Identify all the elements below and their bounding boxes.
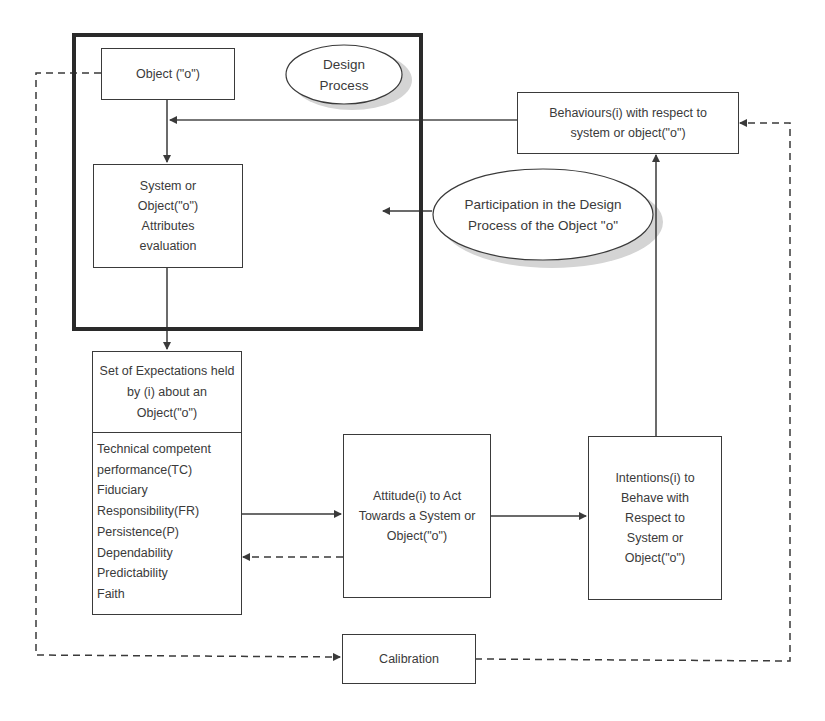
expectation-item: Predictability — [97, 563, 241, 584]
expectation-item: Responsibility(FR) — [97, 501, 241, 522]
expectations-list: Technical competent performance(TC) Fidu… — [92, 432, 242, 615]
calibration-node[interactable]: Calibration — [342, 634, 476, 684]
calibration-label: Calibration — [379, 649, 439, 669]
expectation-item: Faith — [97, 584, 241, 605]
attributes-evaluation-node[interactable]: System or Object("o") Attributes evaluat… — [93, 164, 243, 268]
attitude-label: Attitude(i) to Act Towards a System or O… — [352, 486, 482, 546]
attitude-node[interactable]: Attitude(i) to Act Towards a System or O… — [343, 434, 491, 598]
participation-label: Participation in the Design Process of t… — [463, 194, 623, 236]
expectations-header-label: Set of Expectations held by (i) about an… — [97, 361, 237, 424]
design-process-label: Design Process — [309, 54, 379, 96]
expectation-item: Technical competent — [97, 439, 241, 460]
object-label: Object ("o") — [136, 64, 200, 84]
behaviours-label: Behaviours(i) with respect to system or … — [533, 103, 723, 143]
attributes-label: System or Object("o") Attributes evaluat… — [128, 176, 208, 256]
expectation-item: performance(TC) — [97, 460, 241, 481]
object-node[interactable]: Object ("o") — [101, 48, 235, 100]
expectation-item: Persistence(P) — [97, 522, 241, 543]
expectation-item: Fiduciary — [97, 480, 241, 501]
participation-ellipse: Participation in the Design Process of t… — [432, 168, 654, 261]
intentions-label: Intentions(i) to Behave with Respect to … — [605, 468, 705, 568]
behaviours-node[interactable]: Behaviours(i) with respect to system or … — [517, 92, 739, 154]
expectations-header-node[interactable]: Set of Expectations held by (i) about an… — [92, 351, 242, 433]
expectation-item: Dependability — [97, 543, 241, 564]
intentions-node[interactable]: Intentions(i) to Behave with Respect to … — [588, 436, 722, 600]
design-process-ellipse: Design Process — [285, 44, 403, 105]
